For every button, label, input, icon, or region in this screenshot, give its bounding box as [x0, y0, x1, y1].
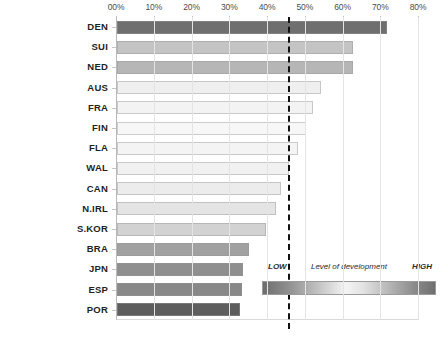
x-axis-tick-label: 20% [183, 2, 200, 12]
chart-row: NED [0, 57, 441, 77]
bar [117, 283, 242, 296]
category-label: NED [0, 57, 108, 77]
category-label: BRA [0, 239, 108, 259]
bar [117, 41, 353, 54]
category-label: CAN [0, 179, 108, 199]
x-axis-tick-label: 40% [259, 2, 276, 12]
gridline [418, 17, 419, 320]
chart-row: SUI [0, 37, 441, 57]
chart-row: WAL [0, 158, 441, 178]
bar [117, 303, 240, 316]
bar [117, 81, 321, 94]
chart-row: N.IRL [0, 199, 441, 219]
y-axis-tick-mark [112, 269, 116, 270]
legend-gradient-bar [262, 281, 436, 295]
legend-high-label: HIGH [412, 262, 432, 271]
x-axis-tick-label: 50% [296, 2, 313, 12]
gridline [343, 17, 344, 320]
x-axis: 00%10%20%30%40%50%60%70%80% [0, 2, 441, 16]
gridline [305, 17, 306, 320]
gridline [267, 17, 268, 320]
category-label: DEN [0, 17, 108, 37]
x-axis-tick-label: 00% [108, 2, 125, 12]
y-axis-tick-mark [112, 128, 116, 129]
chart-container: 00%10%20%30%40%50%60%70%80% DENSUINEDAUS… [0, 0, 441, 337]
gridline [192, 17, 193, 320]
y-axis-tick-mark [112, 27, 116, 28]
x-axis-tick-label: 80% [410, 2, 427, 12]
legend: LOW Level of development HIGH [262, 262, 436, 276]
y-axis-tick-mark [112, 168, 116, 169]
x-axis-tick-label: 10% [145, 2, 162, 12]
category-label: FRA [0, 98, 108, 118]
chart-row: FRA [0, 98, 441, 118]
x-axis-tick-label: 70% [372, 2, 389, 12]
bar [117, 263, 243, 276]
category-label: WAL [0, 158, 108, 178]
y-axis-tick-mark [112, 310, 116, 311]
chart-row: AUS [0, 78, 441, 98]
bar [117, 142, 298, 155]
bar [117, 101, 313, 114]
chart-row: CAN [0, 179, 441, 199]
category-label: ESP [0, 280, 108, 300]
y-axis-tick-mark [112, 229, 116, 230]
bar [117, 182, 281, 195]
x-axis-tick-label: 60% [334, 2, 351, 12]
category-label: N.IRL [0, 199, 108, 219]
legend-low-label: LOW [268, 262, 287, 271]
legend-title: Level of development [311, 262, 387, 271]
category-label: S.KOR [0, 219, 108, 239]
gridline [229, 17, 230, 320]
bar [117, 61, 353, 74]
category-label: JPN [0, 259, 108, 279]
y-axis-tick-mark [112, 148, 116, 149]
y-axis-tick-mark [112, 189, 116, 190]
chart-row: FLA [0, 138, 441, 158]
chart-row: BRA [0, 239, 441, 259]
y-axis-tick-mark [112, 88, 116, 89]
legend-labels: LOW Level of development HIGH [262, 262, 436, 276]
category-label: SUI [0, 37, 108, 57]
gridline [154, 17, 155, 320]
y-axis-tick-mark [112, 249, 116, 250]
y-axis-tick-mark [112, 47, 116, 48]
y-axis-tick-mark [112, 67, 116, 68]
y-axis-tick-mark [112, 290, 116, 291]
chart-row: DEN [0, 17, 441, 37]
bar [117, 202, 276, 215]
category-label: AUS [0, 78, 108, 98]
bar [117, 21, 387, 34]
y-axis-tick-mark [112, 209, 116, 210]
category-label: POR [0, 300, 108, 320]
chart-row: S.KOR [0, 219, 441, 239]
x-axis-tick-label: 30% [221, 2, 238, 12]
bar [117, 162, 289, 175]
chart-row: POR [0, 300, 441, 320]
gridline [380, 17, 381, 320]
chart-row: FIN [0, 118, 441, 138]
y-axis-tick-mark [112, 108, 116, 109]
category-label: FLA [0, 138, 108, 158]
bar [117, 122, 306, 135]
category-label: FIN [0, 118, 108, 138]
